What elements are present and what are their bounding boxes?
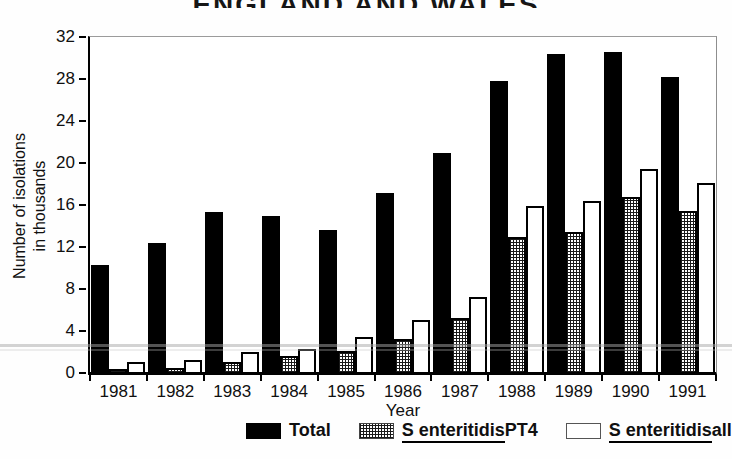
x-axis-ticks bbox=[90, 375, 716, 382]
y-tick-mark-16 bbox=[79, 204, 86, 206]
bar-s-enteritidis-pt4-1983 bbox=[223, 362, 241, 372]
legend-swatch-open-icon bbox=[566, 423, 601, 439]
x-tick-label-1983: 1983 bbox=[204, 382, 261, 402]
bar-s-enteritidis-pt4-1988 bbox=[508, 237, 526, 372]
x-tick-mark-3 bbox=[260, 375, 262, 381]
y-axis: 048121620242832 bbox=[0, 37, 88, 373]
bar-group-1987 bbox=[431, 37, 488, 372]
bar-s-enteritidis-all-1983 bbox=[241, 352, 259, 372]
bar-s-enteritidis-pt4-1989 bbox=[565, 232, 583, 372]
bar-total-1985 bbox=[319, 230, 337, 372]
y-tick-label-24: 24 bbox=[15, 111, 75, 131]
y-tick-mark-0 bbox=[79, 372, 86, 374]
y-tick-label-32: 32 bbox=[15, 27, 75, 47]
bar-total-1987 bbox=[433, 153, 451, 372]
x-tick-label-1984: 1984 bbox=[261, 382, 318, 402]
y-tick-mark-20 bbox=[79, 162, 86, 164]
bar-total-1984 bbox=[262, 216, 280, 372]
legend-swatch-hatch-icon bbox=[359, 423, 394, 439]
x-tick-mark-7 bbox=[487, 375, 489, 381]
x-tick-mark-10 bbox=[658, 375, 660, 381]
x-tick-label-1987: 1987 bbox=[431, 382, 488, 402]
legend-label-underlined-part: S enteritidis bbox=[402, 420, 505, 443]
x-axis-labels: 1981198219831984198519861987198819891990… bbox=[90, 382, 716, 402]
bar-total-1990 bbox=[604, 52, 622, 372]
y-tick-label-20: 20 bbox=[15, 153, 75, 173]
bar-s-enteritidis-all-1985 bbox=[355, 337, 373, 372]
bar-group-1983 bbox=[204, 37, 261, 372]
legend-label-underlined-part: S enteritidis bbox=[609, 420, 712, 443]
bar-s-enteritidis-all-1988 bbox=[526, 206, 544, 372]
x-tick-label-1991: 1991 bbox=[659, 382, 716, 402]
bar-s-enteritidis-all-1986 bbox=[412, 320, 430, 372]
bar-s-enteritidis-all-1987 bbox=[469, 297, 487, 372]
bar-s-enteritidis-all-1981 bbox=[127, 362, 145, 372]
y-tick-mark-12 bbox=[79, 246, 86, 248]
y-tick-label-4: 4 bbox=[15, 321, 75, 341]
bar-group-1985 bbox=[318, 37, 375, 372]
legend-item-total: Total bbox=[246, 420, 331, 441]
bar-group-1990 bbox=[602, 37, 659, 372]
bar-groups bbox=[90, 37, 716, 372]
x-tick-mark-2 bbox=[203, 375, 205, 381]
bar-group-1989 bbox=[545, 37, 602, 372]
x-tick-mark-4 bbox=[317, 375, 319, 381]
x-tick-mark-8 bbox=[544, 375, 546, 381]
bar-s-enteritidis-pt4-1984 bbox=[280, 356, 298, 372]
x-tick-label-1988: 1988 bbox=[488, 382, 545, 402]
y-tick-label-16: 16 bbox=[15, 195, 75, 215]
y-tick-mark-32 bbox=[79, 36, 86, 38]
x-tick-label-1982: 1982 bbox=[147, 382, 204, 402]
y-tick-mark-24 bbox=[79, 120, 86, 122]
x-axis-title: Year bbox=[90, 401, 716, 421]
bar-group-1991 bbox=[659, 37, 716, 372]
y-tick-mark-8 bbox=[79, 288, 86, 290]
bar-s-enteritidis-all-1982 bbox=[184, 360, 202, 372]
x-tick-mark-9 bbox=[601, 375, 603, 381]
legend-item-s-enteritidis-pt4: S enteritidisPT4 bbox=[359, 420, 538, 441]
x-tick-label-1986: 1986 bbox=[375, 382, 432, 402]
x-tick-label-1981: 1981 bbox=[90, 382, 147, 402]
legend-label-s-enteritidis-pt4: S enteritidisPT4 bbox=[402, 420, 538, 441]
x-tick-mark-1 bbox=[146, 375, 148, 381]
bar-s-enteritidis-pt4-1982 bbox=[166, 368, 184, 372]
x-tick-mark-5 bbox=[374, 375, 376, 381]
chart-legend: TotalS enteritidisPT4S enteritidisall bbox=[246, 420, 732, 441]
bar-s-enteritidis-pt4-1991 bbox=[679, 211, 697, 372]
bar-total-1981 bbox=[91, 265, 109, 372]
bar-s-enteritidis-all-1990 bbox=[640, 169, 658, 372]
x-tick-mark-6 bbox=[430, 375, 432, 381]
bar-group-1984 bbox=[261, 37, 318, 372]
bar-s-enteritidis-pt4-1990 bbox=[622, 197, 640, 372]
bar-group-1986 bbox=[375, 37, 432, 372]
bar-s-enteritidis-pt4-1981 bbox=[109, 369, 127, 372]
legend-swatch-solid-icon bbox=[246, 423, 281, 439]
bar-s-enteritidis-pt4-1986 bbox=[394, 339, 412, 373]
x-tick-label-1985: 1985 bbox=[318, 382, 375, 402]
y-tick-label-0: 0 bbox=[15, 363, 75, 383]
bar-s-enteritidis-pt4-1985 bbox=[337, 351, 355, 372]
bar-total-1989 bbox=[547, 54, 565, 372]
x-tick-mark-0 bbox=[89, 375, 91, 381]
bar-group-1981 bbox=[90, 37, 147, 372]
bar-total-1986 bbox=[376, 193, 394, 372]
bar-group-1982 bbox=[147, 37, 204, 372]
bar-s-enteritidis-pt4-1987 bbox=[451, 318, 469, 372]
y-tick-mark-4 bbox=[79, 330, 86, 332]
bar-total-1983 bbox=[205, 212, 223, 372]
legend-label-s-enteritidis-all: S enteritidisall bbox=[609, 420, 732, 441]
legend-label-total: Total bbox=[289, 420, 331, 441]
chart-title-text: ENGLAND AND WALES bbox=[192, 0, 539, 8]
x-tick-label-1990: 1990 bbox=[602, 382, 659, 402]
bar-total-1991 bbox=[661, 77, 679, 372]
legend-item-s-enteritidis-all: S enteritidisall bbox=[566, 420, 732, 441]
y-tick-label-28: 28 bbox=[15, 69, 75, 89]
x-tick-mark-11 bbox=[715, 375, 717, 381]
bar-group-1988 bbox=[488, 37, 545, 372]
bar-s-enteritidis-all-1989 bbox=[583, 201, 601, 372]
chart-title-clipped: ENGLAND AND WALES bbox=[0, 0, 732, 8]
bar-s-enteritidis-all-1991 bbox=[697, 183, 715, 372]
y-tick-label-8: 8 bbox=[15, 279, 75, 299]
bar-s-enteritidis-all-1984 bbox=[298, 349, 316, 372]
y-tick-label-12: 12 bbox=[15, 237, 75, 257]
